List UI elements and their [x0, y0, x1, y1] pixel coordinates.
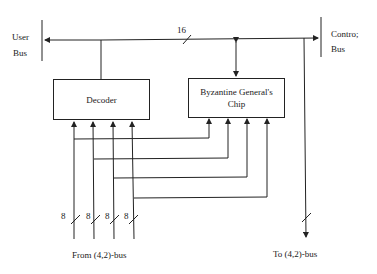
input-width-label-2: 8: [86, 211, 91, 222]
decoder-label: Decoder: [86, 94, 116, 106]
diagram-wires: [0, 0, 377, 274]
bg-input-route-3: [114, 119, 247, 178]
bus-width-label: 16: [177, 25, 186, 36]
input-width-slash-3: [110, 215, 119, 224]
bg-input-route-1: [74, 119, 209, 139]
to-bus-output-line: [304, 38, 306, 237]
user-bus-label-line1: User: [12, 32, 29, 43]
input-width-label-1: 8: [61, 211, 66, 222]
decoder-block: Decoder: [53, 79, 150, 120]
from-bus-label: From (4,2)-bus: [72, 250, 127, 261]
control-bus-label-line2: Bus: [331, 44, 345, 55]
control-bus-label-line1: Contro;: [331, 29, 359, 40]
input-line-4: [132, 122, 134, 239]
input-width-label-3: 8: [105, 211, 110, 222]
user-bus-label-line2: Bus: [13, 48, 27, 59]
input-width-slash-2: [91, 215, 100, 224]
to-bus-label: To (4,2)-bus: [273, 249, 317, 260]
bg-chip-label-line2: Chip: [228, 98, 246, 110]
input-width-slash-1: [71, 215, 80, 224]
bus-arrow-to-control: [101, 38, 318, 40]
input-width-label-4: 8: [124, 211, 129, 222]
byzantine-generals-chip-block: Byzantine General's Chip: [188, 78, 285, 118]
output-width-slash: [302, 213, 311, 222]
bg-chip-label-line1: Byzantine General's: [200, 86, 272, 98]
